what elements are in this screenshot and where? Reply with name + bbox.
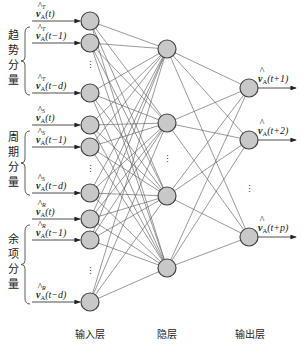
svg-text:R: R bbox=[41, 285, 46, 291]
svg-text:R: R bbox=[41, 223, 46, 229]
group-brace bbox=[21, 225, 30, 304]
output-node bbox=[240, 228, 258, 246]
group-label-char: 趋 bbox=[8, 29, 19, 42]
group-label-char: 分 bbox=[8, 59, 19, 72]
group-label-char: 量 bbox=[8, 74, 19, 87]
neural-network-diagram: ⋮⋮⋮⋮⋮vA(t)^TvA(t−1)^TvA(t−d)^TvA(t)^SvA(… bbox=[0, 0, 302, 355]
input-node bbox=[81, 231, 99, 249]
group-label-char: 期 bbox=[8, 146, 19, 159]
svg-text:^: ^ bbox=[260, 117, 265, 128]
input-ellipsis: ⋮ bbox=[86, 164, 95, 174]
output-layer-label: 输出层 bbox=[235, 328, 265, 340]
group-label-char: 分 bbox=[8, 161, 19, 174]
hidden-node bbox=[158, 187, 176, 205]
hidden-node bbox=[158, 40, 176, 58]
input-node bbox=[81, 34, 99, 52]
layer-labels: 输入层 隐层 输出层 bbox=[75, 328, 265, 340]
svg-text:^: ^ bbox=[260, 214, 265, 225]
input-ellipsis: ⋮ bbox=[86, 60, 95, 70]
input-layer-label: 输入层 bbox=[75, 328, 105, 340]
hidden-ellipsis: ⋮ bbox=[163, 154, 172, 164]
svg-text:S: S bbox=[42, 130, 45, 136]
svg-text:^: ^ bbox=[260, 65, 265, 76]
group-label-char: 项 bbox=[8, 248, 19, 261]
component-groups: 趋势分量周期分量余项分量 bbox=[8, 27, 31, 304]
hidden-node bbox=[158, 114, 176, 132]
group-label-char: 量 bbox=[8, 278, 19, 291]
group-label-char: 周 bbox=[8, 131, 19, 144]
group-label-char: 分 bbox=[8, 263, 19, 276]
svg-text:S: S bbox=[42, 176, 45, 182]
input-node bbox=[81, 84, 99, 102]
svg-text:S: S bbox=[42, 108, 45, 114]
group-label-char: 势 bbox=[8, 44, 19, 57]
input-node bbox=[81, 184, 99, 202]
group-brace bbox=[21, 27, 30, 95]
group-brace bbox=[21, 131, 30, 195]
input-node bbox=[81, 138, 99, 156]
input-node bbox=[81, 12, 99, 30]
hidden-layer-label: 隐层 bbox=[157, 329, 177, 340]
input-ellipsis: ⋮ bbox=[86, 266, 95, 276]
input-node bbox=[81, 116, 99, 134]
input-node bbox=[81, 210, 99, 228]
output-node bbox=[240, 79, 258, 97]
group-label-char: 余 bbox=[8, 232, 19, 246]
output-node bbox=[240, 131, 258, 149]
hidden-node bbox=[158, 259, 176, 277]
output-ellipsis: ⋮ bbox=[245, 184, 254, 194]
group-label-char: 量 bbox=[8, 176, 19, 189]
input-node bbox=[81, 293, 99, 311]
svg-text:R: R bbox=[41, 202, 46, 208]
